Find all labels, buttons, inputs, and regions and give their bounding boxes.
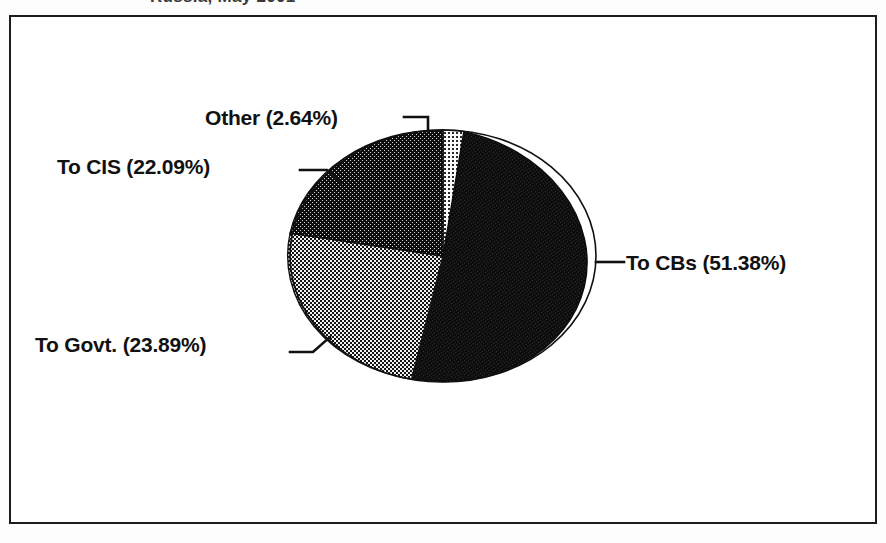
pie-label-to-cis: To CIS (22.09%): [57, 155, 210, 179]
pie-label-to-cbs: To CBs (51.38%): [626, 251, 786, 275]
pie-label-to-govt: To Govt. (23.89%): [35, 333, 206, 357]
clipped-chart-title: Russia, May 2001: [0, 0, 886, 11]
pie-label-other: Other (2.64%): [205, 106, 338, 130]
scanned-page-surface: Russia, May 2001: [0, 0, 886, 543]
chart-title-text: Russia, May 2001: [150, 0, 296, 7]
